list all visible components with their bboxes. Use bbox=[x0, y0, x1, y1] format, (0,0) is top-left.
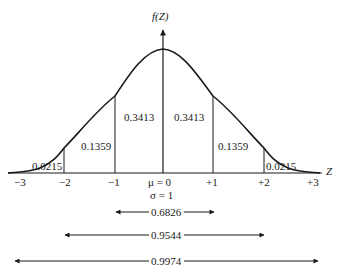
interval-label: 0.6826 bbox=[151, 206, 182, 218]
tick-label: −1 bbox=[108, 176, 120, 188]
tick-label: −3 bbox=[14, 176, 26, 188]
tick-label: −2 bbox=[59, 176, 71, 188]
region-label: 0.1359 bbox=[81, 140, 112, 152]
sigma-label: σ = 1 bbox=[150, 189, 173, 201]
tick-label: +3 bbox=[307, 176, 319, 188]
region-label: 0.0215 bbox=[266, 160, 297, 172]
bell-curve bbox=[8, 49, 320, 173]
region-label: 0.1359 bbox=[218, 140, 249, 152]
y-axis-label: f(Z) bbox=[152, 10, 169, 23]
normal-distribution-chart: Z f(Z) 0.0215 0.1359 0.3413 0.3413 0.135… bbox=[0, 0, 340, 273]
x-axis-label: Z bbox=[326, 165, 333, 177]
tick-label: +1 bbox=[206, 176, 218, 188]
region-label: 0.3413 bbox=[124, 111, 155, 123]
interval-label: 0.9544 bbox=[151, 229, 182, 241]
region-label: 0.0215 bbox=[32, 160, 63, 172]
interval-label: 0.9974 bbox=[151, 255, 182, 267]
tick-label: μ = 0 bbox=[148, 176, 172, 188]
region-label: 0.3413 bbox=[174, 111, 205, 123]
tick-label: +2 bbox=[258, 176, 270, 188]
